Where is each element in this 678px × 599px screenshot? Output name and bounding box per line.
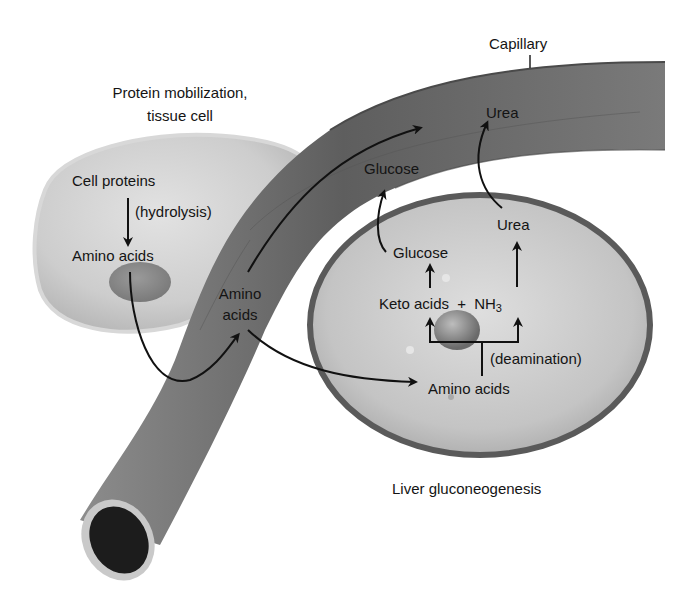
capillary-amino-line1: Amino	[210, 285, 270, 302]
capillary-glucose-label: Glucose	[364, 160, 419, 177]
tissue-amino-acids-label: Amino acids	[72, 247, 154, 264]
tissue-cell-title-line2: tissue cell	[85, 107, 275, 124]
keto-acids-equation: Keto acids + NH3	[379, 295, 502, 312]
keto-acids-label: Keto acids	[379, 295, 449, 312]
hydrolysis-label: (hydrolysis)	[135, 203, 212, 220]
deamination-label: (deamination)	[490, 350, 582, 367]
nh3-label: NH3	[474, 295, 502, 312]
capillary-label: Capillary	[489, 35, 547, 52]
liver-amino-acids-label: Amino acids	[428, 380, 510, 397]
capillary-amino-acids-label: Amino acids	[210, 285, 270, 323]
liver-cell	[310, 195, 650, 455]
liver-glucose-label: Glucose	[393, 244, 448, 261]
tissue-cell-title: Protein mobilization, tissue cell	[85, 84, 275, 124]
cell-proteins-label: Cell proteins	[72, 172, 155, 189]
plus-sign: +	[457, 295, 466, 312]
tissue-cell-nucleus	[109, 262, 171, 302]
liver-urea-label: Urea	[497, 216, 530, 233]
tissue-cell-title-line1: Protein mobilization,	[85, 84, 275, 101]
capillary-urea-label: Urea	[486, 104, 519, 121]
capillary-amino-line2: acids	[210, 306, 270, 323]
liver-gluconeogenesis-caption: Liver gluconeogenesis	[392, 480, 541, 497]
liver-nucleus	[434, 310, 480, 350]
